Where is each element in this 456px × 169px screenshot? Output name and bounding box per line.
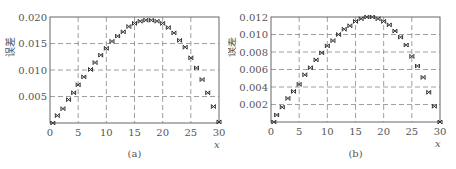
data-point-marker [308, 66, 312, 70]
x-axis-label: x [435, 138, 441, 149]
data-point-marker [275, 113, 279, 117]
data-point-marker [387, 23, 391, 27]
data-point-marker [127, 25, 131, 29]
data-point-marker [61, 107, 65, 111]
y-axis-label: 误差 [228, 37, 237, 57]
data-point-marker [348, 24, 352, 28]
data-point-marker [72, 91, 76, 95]
data-point-marker [292, 89, 296, 93]
svg-text:10: 10 [321, 126, 334, 137]
data-point-marker [314, 58, 318, 62]
data-point-marker [110, 39, 114, 43]
data-point-marker [166, 26, 170, 30]
grid-lines [50, 17, 219, 123]
y-tick-labels: 0.0050.0100.0150.020 [18, 12, 47, 103]
chart-caption: (a) [128, 148, 142, 159]
data-point-marker [55, 114, 59, 118]
svg-text:0.006: 0.006 [239, 64, 268, 75]
data-point-marker [206, 91, 210, 95]
svg-text:10: 10 [100, 127, 113, 138]
svg-text:30: 30 [213, 127, 226, 138]
chart-panel-b: 0510152025300.0020.0040.0060.0080.0100.0… [228, 0, 456, 169]
svg-text:25: 25 [405, 126, 418, 137]
data-point-marker [194, 66, 198, 70]
data-point-marker [144, 18, 148, 22]
svg-text:30: 30 [434, 126, 447, 137]
data-point-marker [415, 64, 419, 68]
chart-caption: (b) [348, 148, 362, 159]
svg-text:0: 0 [47, 127, 53, 138]
svg-text:0.004: 0.004 [239, 82, 268, 93]
y-axis-label: 误差 [4, 37, 16, 57]
data-point-marker [149, 18, 153, 22]
data-point-marker [200, 78, 204, 82]
scatter-chart-a: 0510152025300.0050.0100.0150.020x误差(a) [0, 0, 228, 169]
data-point-marker [116, 34, 120, 38]
data-point-marker [427, 90, 431, 94]
data-point-marker [82, 75, 86, 79]
x-tick-labels: 051015202530 [268, 126, 447, 137]
svg-text:0.012: 0.012 [239, 12, 268, 23]
data-points [51, 18, 221, 125]
x-tick-labels: 051015202530 [47, 127, 226, 138]
svg-text:15: 15 [128, 127, 141, 138]
svg-text:0: 0 [268, 126, 274, 137]
svg-text:20: 20 [377, 126, 390, 137]
data-point-marker [172, 31, 176, 35]
svg-text:5: 5 [296, 126, 302, 137]
svg-text:25: 25 [184, 127, 197, 138]
scatter-chart-b: 0510152025300.0020.0040.0060.0080.0100.0… [228, 0, 456, 169]
svg-text:0.002: 0.002 [239, 99, 268, 110]
chart-panel-a: 0510152025300.0050.0100.0150.020x误差(a) [0, 0, 228, 169]
data-point-marker [421, 75, 425, 79]
data-point-marker [320, 51, 324, 55]
svg-text:5: 5 [75, 127, 81, 138]
svg-text:0.005: 0.005 [18, 91, 47, 102]
data-point-marker [393, 29, 397, 33]
y-tick-labels: 0.0020.0040.0060.0080.0100.012 [239, 12, 268, 111]
svg-text:15: 15 [349, 126, 362, 137]
svg-text:0.010: 0.010 [239, 29, 268, 40]
data-point-marker [93, 61, 97, 65]
svg-text:0.008: 0.008 [239, 47, 268, 58]
svg-text:20: 20 [156, 127, 169, 138]
data-point-marker [99, 53, 103, 57]
svg-text:0.010: 0.010 [18, 65, 47, 76]
data-point-marker [303, 73, 307, 77]
data-point-marker [67, 98, 71, 102]
svg-text:0.015: 0.015 [18, 38, 47, 49]
data-point-marker [211, 105, 215, 109]
x-axis-label: x [214, 139, 220, 150]
data-point-marker [138, 19, 142, 23]
data-point-marker [121, 30, 125, 34]
data-point-marker [342, 27, 346, 31]
data-point-marker [286, 96, 290, 100]
svg-text:0.020: 0.020 [18, 12, 47, 23]
data-point-marker [155, 19, 159, 23]
data-point-marker [178, 38, 182, 42]
data-point-marker [183, 45, 187, 49]
data-point-marker [89, 67, 93, 71]
data-point-marker [280, 105, 284, 109]
data-point-marker [399, 35, 403, 39]
data-point-marker [404, 43, 408, 47]
data-point-marker [331, 39, 335, 43]
grid-lines [271, 17, 440, 122]
